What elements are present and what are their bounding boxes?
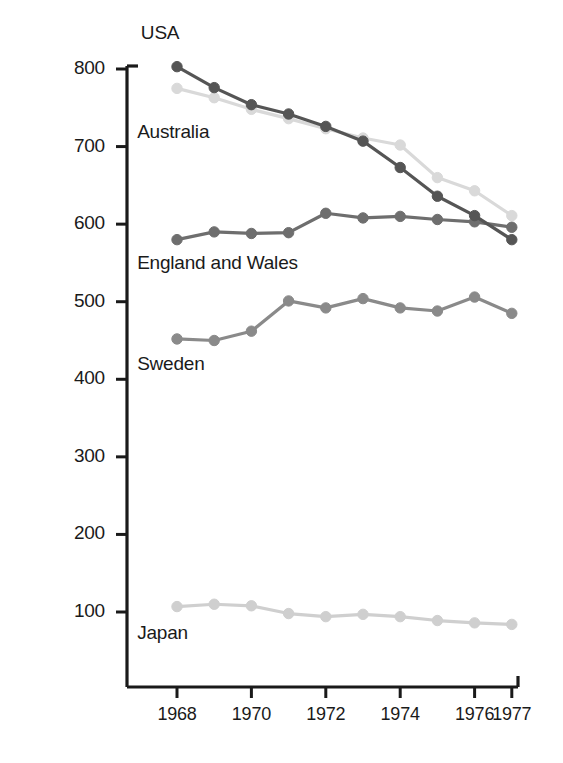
x-axis-tick-label: 1972 bbox=[286, 704, 366, 725]
series-japan bbox=[172, 599, 517, 630]
data-point bbox=[172, 234, 182, 244]
data-point bbox=[321, 121, 331, 131]
chart-figure: Rate per 100 000 10020030040050060070080… bbox=[0, 0, 563, 763]
series-australia bbox=[172, 83, 517, 221]
data-point bbox=[469, 210, 479, 220]
series-usa bbox=[172, 61, 517, 244]
data-point bbox=[507, 308, 517, 318]
data-point bbox=[321, 303, 331, 313]
y-axis-tick-label: 400 bbox=[51, 367, 105, 389]
data-point bbox=[283, 296, 293, 306]
series-label-england-and-wales: England and Wales bbox=[137, 252, 298, 274]
data-point bbox=[432, 306, 442, 316]
data-point bbox=[432, 191, 442, 201]
data-point bbox=[358, 136, 368, 146]
data-point bbox=[507, 619, 517, 629]
series-label-japan: Japan bbox=[137, 622, 188, 644]
y-axis-tick-label: 300 bbox=[51, 445, 105, 467]
series-line bbox=[177, 604, 512, 624]
data-point bbox=[209, 93, 219, 103]
series-sweden bbox=[172, 292, 517, 346]
data-point bbox=[469, 618, 479, 628]
data-point bbox=[172, 334, 182, 344]
data-point bbox=[172, 83, 182, 93]
chart-axes bbox=[127, 66, 518, 687]
data-point bbox=[283, 109, 293, 119]
data-point bbox=[507, 234, 517, 244]
x-axis-tick-label: 1977 bbox=[472, 704, 552, 725]
series-label-usa: USA bbox=[141, 22, 179, 44]
data-point bbox=[358, 609, 368, 619]
y-axis-tick-label: 100 bbox=[51, 600, 105, 622]
data-point bbox=[246, 99, 256, 109]
series-line bbox=[177, 213, 512, 239]
data-point bbox=[172, 61, 182, 71]
series-line bbox=[177, 88, 512, 215]
series-line bbox=[177, 67, 512, 240]
data-point bbox=[283, 227, 293, 237]
series-england-and-wales bbox=[172, 208, 517, 245]
data-point bbox=[432, 615, 442, 625]
data-point bbox=[209, 599, 219, 609]
series-label-sweden: Sweden bbox=[137, 353, 204, 375]
data-point bbox=[358, 293, 368, 303]
data-point bbox=[246, 601, 256, 611]
data-point bbox=[469, 292, 479, 302]
y-axis-tick-label: 600 bbox=[51, 212, 105, 234]
data-point bbox=[321, 611, 331, 621]
data-point bbox=[432, 172, 442, 182]
data-point bbox=[209, 82, 219, 92]
y-axis-tick-label: 800 bbox=[51, 57, 105, 79]
data-point bbox=[432, 214, 442, 224]
data-point bbox=[209, 227, 219, 237]
data-point bbox=[246, 228, 256, 238]
data-point bbox=[507, 222, 517, 232]
data-point bbox=[172, 601, 182, 611]
data-point bbox=[469, 186, 479, 196]
data-point bbox=[209, 335, 219, 345]
data-point bbox=[395, 162, 405, 172]
data-point bbox=[358, 213, 368, 223]
series-label-australia: Australia bbox=[137, 121, 209, 143]
y-axis-tick-label: 700 bbox=[51, 135, 105, 157]
data-point bbox=[395, 211, 405, 221]
data-point bbox=[321, 208, 331, 218]
y-axis-tick-label: 200 bbox=[51, 522, 105, 544]
data-point bbox=[246, 326, 256, 336]
data-point bbox=[395, 611, 405, 621]
data-point bbox=[395, 140, 405, 150]
series-line bbox=[177, 297, 512, 340]
data-point bbox=[395, 303, 405, 313]
data-point bbox=[283, 608, 293, 618]
y-axis-tick-label: 500 bbox=[51, 290, 105, 312]
data-point bbox=[507, 210, 517, 220]
x-axis-tick-label: 1970 bbox=[211, 704, 291, 725]
x-axis-tick-label: 1968 bbox=[137, 704, 217, 725]
x-axis-tick-label: 1974 bbox=[360, 704, 440, 725]
